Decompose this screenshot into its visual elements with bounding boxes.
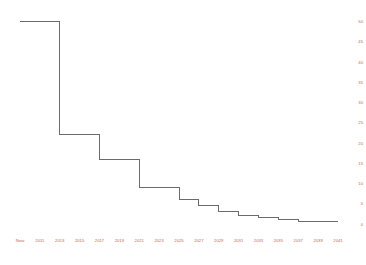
x-tick-label: 2037 (294, 238, 303, 243)
x-tick-label: 2013 (55, 238, 64, 243)
x-tick-label: 2023 (154, 238, 163, 243)
x-tick-label: 2021 (135, 238, 144, 243)
x-tick-label: 2039 (313, 238, 322, 243)
x-tick-label: 2027 (194, 238, 203, 243)
x-tick-label: 2029 (214, 238, 223, 243)
x-tick-label: 2035 (274, 238, 283, 243)
x-tick-label: 2011 (35, 238, 44, 243)
x-tick-label: Now (16, 238, 25, 243)
x-tick-label: 2019 (115, 238, 124, 243)
chart-container: 05101520253035404550 Now2011201320152017… (0, 0, 366, 265)
x-tick-label: 2041 (333, 238, 342, 243)
x-axis-tick-labels: Now2011201320152017201920212023202520272… (0, 0, 366, 265)
x-tick-label: 2033 (254, 238, 263, 243)
x-tick-label: 2015 (75, 238, 84, 243)
x-tick-label: 2017 (95, 238, 104, 243)
x-tick-label: 2025 (174, 238, 183, 243)
x-tick-label: 2031 (234, 238, 243, 243)
